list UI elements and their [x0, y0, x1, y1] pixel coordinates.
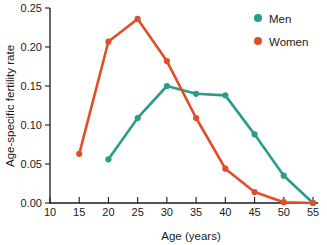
legend-marker-women: [254, 37, 262, 45]
data-point: [281, 173, 287, 179]
y-axis-title: Age-specific fertility rate: [4, 45, 16, 167]
x-tick-label: 35: [190, 206, 202, 218]
data-point: [281, 199, 287, 205]
data-point: [193, 115, 199, 121]
data-point: [135, 16, 141, 22]
data-point: [164, 83, 170, 89]
data-point: [193, 91, 199, 97]
x-tick-label: 40: [219, 206, 231, 218]
y-tick-label: 0.25: [21, 2, 42, 14]
chart-canvas: 0.000.050.100.150.200.25 101520253035404…: [0, 0, 327, 245]
chart-legend: MenWomen: [254, 13, 308, 48]
x-tick-label: 20: [102, 206, 114, 218]
data-point: [135, 115, 141, 121]
data-point: [105, 156, 111, 162]
x-tick-label: 15: [73, 206, 85, 218]
y-tick-label: 0.15: [21, 80, 42, 92]
legend-label-men: Men: [269, 13, 291, 25]
data-point: [222, 166, 228, 172]
x-tick-label: 10: [44, 206, 56, 218]
x-axis-title: Age (years): [161, 230, 221, 242]
data-point: [105, 38, 111, 44]
data-point: [164, 58, 170, 64]
y-axis-ticks: [45, 8, 50, 203]
y-tick-label: 0.10: [21, 119, 42, 131]
data-point: [76, 151, 82, 157]
x-axis-tick-labels: 10152025303540455055: [44, 206, 319, 218]
y-tick-label: 0.05: [21, 158, 42, 170]
x-tick-label: 30: [161, 206, 173, 218]
x-tick-label: 50: [278, 206, 290, 218]
fertility-rate-chart-figure: 0.000.050.100.150.200.25 101520253035404…: [0, 0, 327, 245]
y-tick-label: 0.00: [21, 197, 42, 209]
x-tick-label: 45: [248, 206, 260, 218]
x-tick-label: 55: [307, 206, 319, 218]
x-tick-label: 25: [132, 206, 144, 218]
y-tick-label: 0.20: [21, 41, 42, 53]
data-point: [251, 131, 257, 137]
data-point: [310, 200, 316, 206]
data-point: [251, 189, 257, 195]
data-point: [222, 92, 228, 98]
legend-marker-men: [254, 14, 262, 22]
legend-label-women: Women: [269, 36, 308, 48]
y-axis-tick-labels: 0.000.050.100.150.200.25: [21, 2, 42, 209]
